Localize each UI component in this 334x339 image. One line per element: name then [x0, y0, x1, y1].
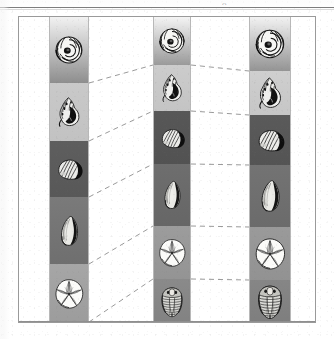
band-conch [50, 83, 88, 141]
conch-gastropod-icon [52, 95, 86, 129]
link-2-d [191, 226, 249, 227]
band-trilobite [154, 279, 190, 322]
band-ammonite [154, 17, 190, 65]
trilobite-icon [252, 284, 288, 320]
band-ammonite [50, 17, 88, 83]
conch-gastropod-icon [252, 75, 288, 111]
band-ammonite [250, 17, 290, 71]
link-1-e [89, 279, 153, 322]
clam-bivalve-icon [52, 152, 86, 186]
plate-baseline [19, 321, 315, 322]
ammonite-shell-icon [156, 25, 188, 57]
ammonite-shell-icon [52, 33, 86, 67]
band-conch [154, 65, 190, 111]
link-1-b [89, 111, 153, 141]
top-rule-shadow [0, 9, 334, 10]
link-1-a [89, 65, 153, 83]
band-mussel [250, 165, 290, 227]
curved-bivalve-icon [252, 178, 288, 214]
link-1-d [89, 226, 153, 264]
sand-dollar-urchin-icon [52, 277, 86, 311]
conch-gastropod-icon [156, 72, 188, 104]
right-column [249, 17, 291, 322]
curved-bivalve-icon [156, 179, 188, 211]
band-clam [250, 115, 290, 165]
band-sanddollar [250, 227, 290, 280]
band-clam [50, 141, 88, 197]
band-conch [250, 71, 290, 115]
band-sanddollar [154, 226, 190, 279]
band-mussel [50, 197, 88, 264]
top-edge-glyph-artifact: o [222, 0, 229, 5]
curved-bivalve-icon [52, 214, 86, 248]
sand-dollar-urchin-icon [156, 237, 188, 269]
top-horizontal-rule [0, 7, 334, 8]
clam-bivalve-icon [252, 122, 288, 158]
ammonite-shell-icon [252, 26, 288, 62]
sand-dollar-urchin-icon [252, 236, 288, 272]
left-column [49, 17, 89, 322]
link-2-c [191, 164, 249, 165]
band-sanddollar [50, 264, 88, 322]
link-2-a [191, 65, 249, 71]
trilobite-icon [156, 286, 188, 318]
band-mussel [154, 164, 190, 226]
band-clam [154, 111, 190, 164]
clam-bivalve-icon [156, 122, 188, 154]
middle-column [153, 17, 191, 322]
link-1-c [89, 164, 153, 197]
figure-plate [18, 16, 316, 323]
band-trilobite [250, 280, 290, 322]
link-2-b [191, 111, 249, 115]
link-2-e [191, 279, 249, 280]
